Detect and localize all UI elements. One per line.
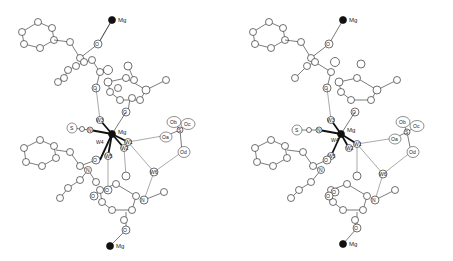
mg-center-label: Mg: [118, 129, 126, 135]
o-low3-label: O: [91, 193, 95, 199]
o-low3-label-r: O: [326, 193, 330, 199]
w3-label-r: W3: [327, 117, 335, 123]
lower-phenyl-ring: [21, 137, 60, 170]
o-bottom-label: O: [123, 227, 127, 233]
stereo-panel-left: O Mg O O: [0, 0, 226, 261]
upper-phenyl-ring: [19, 19, 58, 52]
w6-label-r: W6: [379, 171, 387, 177]
w4-label-r: W4: [331, 137, 339, 143]
w1-label-r: W1: [354, 141, 362, 147]
o-top-label-r: O: [326, 41, 330, 47]
mg-center-cluster: W3 S N Mg W1 W2 W4 W5 W6: [67, 88, 182, 200]
n-lower-label: N: [86, 167, 90, 173]
sulfate-oc-label: Oc: [184, 121, 191, 127]
mg-top: O Mg: [94, 17, 126, 49]
n-upper-label: N: [141, 197, 145, 203]
lower-aromatic-ring: O O N O Mg: [90, 172, 168, 250]
sulfate-oa-label: Oa: [162, 134, 169, 140]
o-low2-label: O: [105, 187, 109, 193]
stereo-figure: O Mg O O: [0, 0, 453, 261]
o-low1-label: O: [93, 157, 97, 163]
mg-bottom-label: Mg: [116, 243, 124, 249]
n-lower-label-r: N: [319, 167, 323, 173]
w5-label: W5: [105, 153, 113, 159]
w6-label: W6: [150, 169, 158, 175]
sulfate-group: Ob Oc S Oa Od: [160, 117, 195, 158]
n-scn-label-r: N: [317, 127, 321, 133]
upper-chain: [54, 20, 113, 88]
mg-bottom-label-r: Mg: [349, 241, 357, 247]
o-low1-label-r: O: [324, 157, 328, 163]
w4-label: W4: [96, 139, 104, 145]
sulfate-ob-label-r: Ob: [399, 119, 406, 125]
mg-top-label-r: Mg: [349, 17, 357, 23]
sulfate-oc-label-r: Oc: [413, 123, 420, 129]
n-scn-label: N: [88, 127, 92, 133]
n-upper-label-r: N: [372, 197, 376, 203]
o-top-label: O: [95, 41, 99, 47]
w2-label: W2: [121, 145, 129, 151]
sulfate-od-label: Od: [180, 149, 187, 155]
sulfate-oa-label-r: Oa: [391, 136, 398, 142]
w2-label-r: W2: [346, 145, 354, 151]
sulfate-od-label-r: Od: [409, 149, 416, 155]
mg-top-label: Mg: [118, 17, 126, 23]
sulfate-ob-label: Ob: [170, 119, 177, 125]
o-bottom-label-r: O: [354, 225, 358, 231]
mg-center-label-r: Mg: [347, 127, 355, 133]
w3-label: W3: [96, 117, 104, 123]
stereo-panel-right: O Mg O O W3: [227, 0, 453, 261]
